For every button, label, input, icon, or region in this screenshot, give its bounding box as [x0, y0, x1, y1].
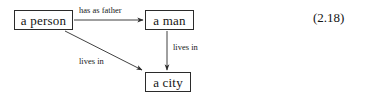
node-a-man-label: a man	[153, 14, 185, 27]
node-a-city[interactable]: a city	[145, 72, 191, 92]
edge-label-has-as-father: has as father	[78, 6, 122, 15]
figure-root: a person a man a city has as father live…	[0, 0, 373, 100]
node-a-city-label: a city	[153, 76, 183, 89]
edge-label-lives-in-person-city: lives in	[78, 57, 105, 66]
node-a-man[interactable]: a man	[145, 10, 194, 30]
node-a-person-label: a person	[21, 14, 66, 27]
node-a-person[interactable]: a person	[14, 10, 73, 30]
edge-label-lives-in-man-city: lives in	[172, 43, 199, 52]
equation-number: (2.18)	[313, 11, 344, 24]
